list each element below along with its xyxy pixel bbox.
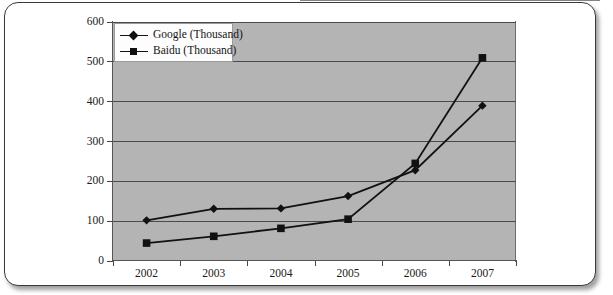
series-line-square (147, 58, 483, 243)
legend-item-google: Google (Thousand) (119, 27, 228, 43)
legend-item-baidu: Baidu (Thousand) (119, 43, 228, 59)
diamond-data-point (344, 192, 352, 200)
square-data-point (479, 54, 487, 62)
square-data-point (277, 225, 285, 233)
legend-label-baidu: Baidu (Thousand) (153, 45, 236, 57)
diamond-marker-icon (119, 28, 149, 42)
square-data-point (210, 233, 218, 241)
series-line-diamond (147, 106, 483, 221)
square-data-point (143, 239, 151, 247)
diamond-data-point (277, 204, 285, 212)
legend-label-google: Google (Thousand) (153, 29, 243, 41)
chart-legend: Google (Thousand) Baidu (Thousand) (114, 23, 233, 62)
data-series-layer (0, 0, 613, 295)
square-marker-icon (119, 44, 149, 58)
square-data-point (411, 160, 419, 168)
square-data-point (344, 215, 352, 223)
diamond-data-point (142, 216, 150, 224)
diamond-data-point (210, 205, 218, 213)
chart-page: 0100200300400500600 20022003200420052006… (0, 0, 613, 295)
line-chart: 0100200300400500600 20022003200420052006… (0, 0, 613, 295)
